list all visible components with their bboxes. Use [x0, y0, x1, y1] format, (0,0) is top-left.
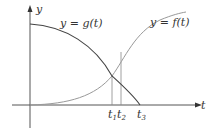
- f-curve-label: y = f(t): [149, 16, 190, 29]
- g-curve: [30, 24, 140, 105]
- y-axis-label: y: [35, 3, 43, 16]
- t-axis-label: t: [201, 99, 206, 112]
- g-curve-label: y = g(t): [59, 17, 102, 30]
- t1-label: t1: [108, 108, 117, 122]
- t3-label: t3: [137, 108, 146, 122]
- y-axis-arrow-icon: [28, 5, 33, 12]
- diagram-canvas: y t y = g(t) y = f(t) t1 t2 t3: [0, 0, 210, 132]
- t2-label: t2: [117, 108, 126, 122]
